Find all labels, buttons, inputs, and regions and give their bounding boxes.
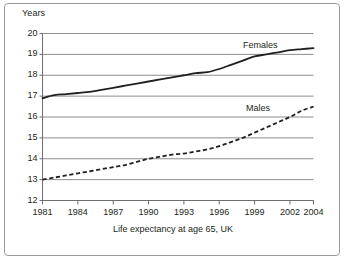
x-tick-label: 1990	[129, 207, 169, 217]
series-line-females	[43, 48, 314, 98]
plot-canvas	[0, 0, 346, 262]
y-tick-label: 20	[14, 28, 38, 38]
x-tick-label: 2004	[294, 207, 334, 217]
y-tick-label: 18	[14, 69, 38, 79]
series-label-males: Males	[246, 103, 270, 113]
y-tick-label: 13	[14, 174, 38, 184]
x-tick-label: 1993	[164, 207, 204, 217]
series-label-females: Females	[243, 40, 278, 50]
x-tick-label: 1987	[93, 207, 133, 217]
gridlines-group	[43, 34, 314, 201]
y-tick-label: 17	[14, 90, 38, 100]
y-tick-label: 19	[14, 48, 38, 58]
tick-marks-group	[40, 34, 314, 205]
x-tick-label: 1996	[199, 207, 239, 217]
chart-caption: Life expectancy at age 65, UK	[0, 224, 346, 234]
y-tick-label: 16	[14, 111, 38, 121]
x-tick-label: 1981	[23, 207, 63, 217]
y-tick-label: 12	[14, 195, 38, 205]
series-line-males	[43, 107, 314, 180]
y-tick-label: 14	[14, 153, 38, 163]
x-tick-label: 1999	[235, 207, 275, 217]
y-tick-label: 15	[14, 132, 38, 142]
chart-figure: Years 121314151617181920 198119841987199…	[0, 0, 346, 262]
x-tick-label: 1984	[58, 207, 98, 217]
